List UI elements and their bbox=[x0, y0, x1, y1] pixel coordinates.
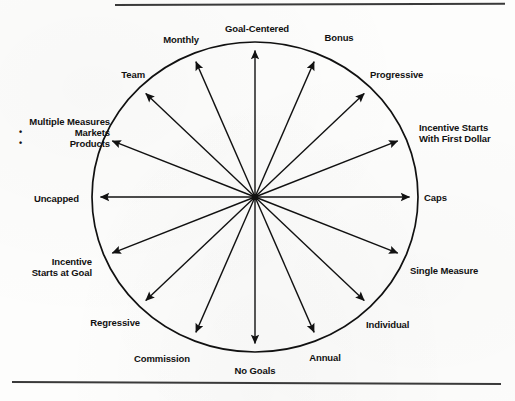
spoke-arrow-individual bbox=[255, 197, 364, 301]
spoke-label-team: Team bbox=[121, 70, 145, 81]
spoke-label-uncapped: Uncapped bbox=[34, 194, 79, 205]
label-line-2: With First Dollar bbox=[419, 132, 491, 143]
figure-page: Goal-Centered Bonus Progressive Incentiv… bbox=[0, 0, 515, 401]
spoke-label-commission: Commission bbox=[134, 354, 190, 365]
spoke-label-caps: Caps bbox=[424, 193, 447, 204]
label-line-1: Incentive Starts bbox=[419, 122, 488, 133]
spoke-label-annual: Annual bbox=[309, 353, 341, 364]
spoke-label-multiple-measures: Multiple Measures Markets Products bbox=[2, 116, 110, 149]
multiple-measures-bullet-markets: Markets bbox=[28, 127, 110, 138]
spoke-label-incentive-starts-with-first-dollar: Incentive Starts With First Dollar bbox=[419, 123, 511, 144]
label-line-2: Starts at Goal bbox=[32, 266, 92, 277]
spoke-label-single-measure: Single Measure bbox=[410, 266, 478, 277]
spoke-arrow-regressive bbox=[146, 197, 255, 301]
label-line-1: Incentive bbox=[52, 256, 92, 267]
spoke-label-no-goals: No Goals bbox=[235, 366, 276, 377]
wheel-center-hub bbox=[252, 194, 258, 200]
multiple-measures-title: Multiple Measures bbox=[2, 116, 110, 127]
spoke-label-monthly: Monthly bbox=[163, 35, 199, 46]
spoke-label-progressive: Progressive bbox=[370, 70, 423, 81]
spoke-label-regressive: Regressive bbox=[90, 318, 140, 329]
multiple-measures-bullet-list: Markets Products bbox=[2, 127, 110, 149]
spoke-label-individual: Individual bbox=[366, 320, 409, 331]
spoke-arrow-progressive bbox=[255, 93, 364, 197]
spoke-arrow-team bbox=[146, 93, 255, 197]
spoke-label-goal-centered: Goal-Centered bbox=[225, 24, 289, 35]
spoke-label-incentive-starts-at-goal: Incentive Starts at Goal bbox=[2, 257, 92, 278]
spoke-label-bonus: Bonus bbox=[324, 33, 353, 44]
multiple-measures-bullet-products: Products bbox=[28, 138, 110, 149]
